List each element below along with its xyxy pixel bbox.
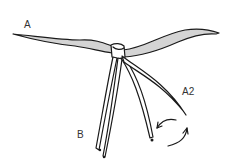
label-a: A — [24, 20, 31, 30]
label-a2: A2 — [182, 87, 194, 97]
strand-a2 — [122, 56, 186, 115]
knot-diagram — [0, 0, 235, 165]
label-b: B — [77, 130, 84, 140]
strand-a-left — [13, 34, 112, 53]
strand-a-right — [123, 29, 219, 57]
